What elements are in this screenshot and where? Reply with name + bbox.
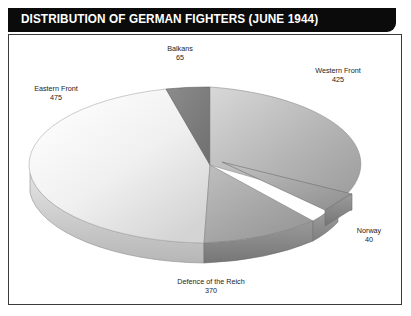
slice-label-norway: Norway 40 [340, 226, 399, 245]
pie-slice-group [29, 87, 361, 263]
slice-label-balkans-name: Balkans [136, 44, 223, 53]
page-title: DISTRIBUTION OF GERMAN FIGHTERS (JUNE 19… [21, 12, 318, 26]
pie-chart-figure: DISTRIBUTION OF GERMAN FIGHTERS (JUNE 19… [0, 0, 411, 316]
slice-label-defence-of-the-reich-name: Defence of the Reich [146, 277, 275, 286]
slice-label-eastern-front-value: 475 [12, 93, 99, 102]
slice-label-eastern-front-name: Eastern Front [12, 84, 99, 93]
slice-label-norway-name: Norway [340, 226, 399, 235]
slice-label-defence-of-the-reich-value: 370 [146, 286, 275, 295]
slice-label-eastern-front: Eastern Front 475 [12, 84, 99, 103]
slice-label-western-front-name: Western Front [292, 66, 383, 75]
slice-label-norway-value: 40 [340, 235, 399, 244]
slice-label-balkans-value: 65 [136, 53, 223, 62]
slice-label-western-front: Western Front 425 [292, 66, 383, 85]
chart-title-bar: DISTRIBUTION OF GERMAN FIGHTERS (JUNE 19… [8, 8, 396, 32]
slice-label-defence-of-the-reich: Defence of the Reich 370 [146, 277, 275, 296]
slice-label-western-front-value: 425 [292, 75, 383, 84]
slice-label-balkans: Balkans 65 [136, 44, 223, 63]
